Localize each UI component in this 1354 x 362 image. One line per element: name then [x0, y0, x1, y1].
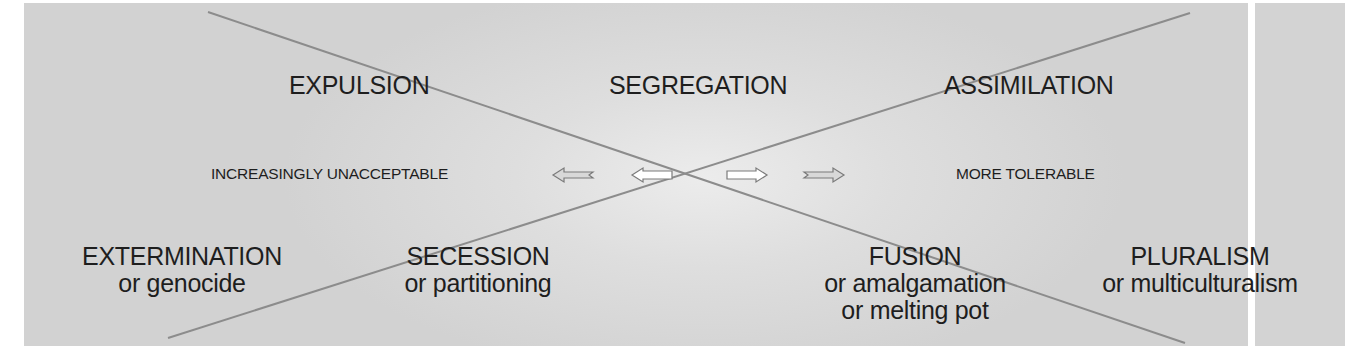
arrow-right-filled-icon: [725, 166, 769, 184]
label-or-partitioning: or partitioning: [358, 270, 598, 297]
arrow-left-filled-icon: [630, 166, 674, 184]
label-or-multiculturalism: or multiculturalism: [1062, 270, 1338, 297]
label-extermination: EXTERMINATION: [52, 243, 312, 270]
group-fusion: FUSION or amalgamation or melting pot: [795, 243, 1035, 324]
group-pluralism: PLURALISM or multiculturalism: [1062, 243, 1338, 297]
label-or-melting-pot: or melting pot: [795, 297, 1035, 324]
label-fusion: FUSION: [795, 243, 1035, 270]
label-increasingly-unacceptable: INCREASINGLY UNACCEPTABLE: [211, 166, 448, 183]
label-assimilation: ASSIMILATION: [944, 72, 1114, 99]
label-secession: SECESSION: [358, 243, 598, 270]
arrow-right-outline-icon: [802, 166, 846, 184]
label-pluralism: PLURALISM: [1062, 243, 1338, 270]
label-segregation: SEGREGATION: [609, 72, 787, 99]
group-secession: SECESSION or partitioning: [358, 243, 598, 297]
group-extermination: EXTERMINATION or genocide: [52, 243, 312, 297]
crossing-lines: [0, 0, 1354, 362]
label-or-genocide: or genocide: [52, 270, 312, 297]
label-expulsion: EXPULSION: [289, 72, 429, 99]
label-or-amalgamation: or amalgamation: [795, 270, 1035, 297]
arrow-left-outline-icon: [551, 166, 595, 184]
label-more-tolerable: MORE TOLERABLE: [956, 166, 1095, 183]
